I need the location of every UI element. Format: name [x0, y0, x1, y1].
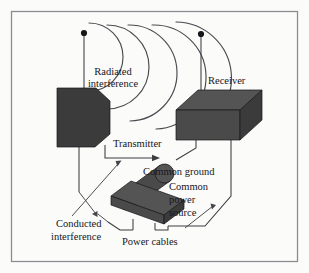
receiver-label: Receiver	[208, 75, 246, 86]
emc-interference-figure: Radiated interference Receiver Transmitt…	[0, 0, 309, 273]
receiver-box	[176, 90, 262, 140]
transmitter-box	[57, 88, 110, 147]
transmitter-antenna	[81, 30, 87, 93]
transmitter-antenna-dot	[81, 30, 87, 36]
conducted-interference-label-line2: interference	[51, 231, 101, 242]
common-power-source-arrowhead	[211, 204, 217, 210]
common-power-source-label-line3: source	[169, 207, 197, 218]
common-power-source-label-line2: power	[169, 194, 196, 205]
receiver-antenna	[198, 31, 204, 95]
common-ground-label: Common ground	[143, 166, 215, 177]
conducted-interference-label-line1: Conducted	[56, 218, 102, 229]
transmitter-label: Transmitter	[113, 138, 162, 149]
common-power-source-label-line1: Common	[169, 181, 209, 192]
common-ground-arrowhead	[152, 155, 160, 161]
power-cables-label: Power cables	[122, 236, 178, 247]
radiated-interference-label-line1: Radiated	[94, 66, 132, 77]
radiated-interference-label-line2: interference	[88, 78, 138, 89]
receiver-antenna-dot	[198, 31, 204, 37]
